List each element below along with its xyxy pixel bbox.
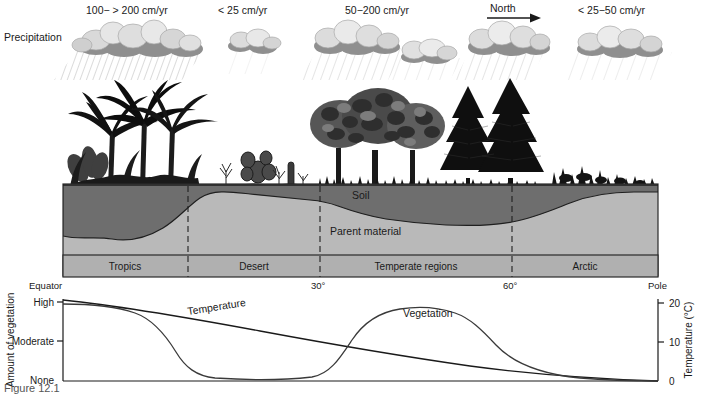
precip-label-1: < 25 cm/yr <box>218 4 268 16</box>
vegetation-temperate-deciduous <box>310 88 445 188</box>
cloud-group-arctic <box>577 26 663 58</box>
cloud-group-tropics <box>72 20 203 57</box>
y-axis-title-left: Amount of vegetation <box>5 293 16 388</box>
figure-caption: Figure 12.1 <box>4 382 60 394</box>
ytick-right-20: 20 <box>669 298 681 309</box>
parent-material-label: Parent material <box>330 225 401 237</box>
ytick-high: High <box>33 297 54 308</box>
series-line-temperature <box>63 300 658 381</box>
y-axis-title-right: Temperature (°C) <box>683 302 694 379</box>
cloud-group-desert <box>228 29 281 54</box>
zone-label-temperate: Temperate regions <box>375 261 458 272</box>
north-label: North <box>490 2 516 14</box>
latitude-axis: Equator 30° 60° Pole <box>29 280 667 291</box>
precip-label-2: 50−200 cm/yr <box>345 4 409 16</box>
ytick-right-0: 0 <box>669 376 675 387</box>
series-line-vegetation <box>63 304 658 381</box>
figure-root: 100− > 200 cm/yr < 25 cm/yr 50−200 cm/yr… <box>0 0 701 394</box>
lat-tick-60: 60° <box>503 280 518 291</box>
north-arrow-icon: North <box>487 2 541 22</box>
vegetation-temperate-conifer <box>440 78 544 188</box>
cloud-group-conifer <box>468 21 550 56</box>
ytick-moderate: Moderate <box>12 336 55 347</box>
annotation-vegetation: Vegetation <box>403 307 453 319</box>
zone-label-arctic: Arctic <box>573 261 598 272</box>
annotation-temperature: Temperature <box>186 296 246 317</box>
precip-label-0: 100− > 200 cm/yr <box>86 4 168 16</box>
vegetation-desert <box>212 151 312 188</box>
lat-tick-pole: Pole <box>648 280 667 291</box>
biome-soil-diagram: 100− > 200 cm/yr < 25 cm/yr 50−200 cm/yr… <box>0 0 701 394</box>
vegetation-arctic <box>552 166 655 186</box>
ytick-right-10: 10 <box>669 337 681 348</box>
zone-label-tropics: Tropics <box>109 261 141 272</box>
soil-label: Soil <box>352 189 370 201</box>
lat-tick-equator: Equator <box>29 280 62 291</box>
vegetation-tropics <box>63 80 218 188</box>
zone-label-desert: Desert <box>239 261 269 272</box>
vegetation-temperature-chart: High Moderate None 20 10 0 Temperature V… <box>5 293 694 388</box>
precipitation-row-label: Precipitation <box>4 31 62 43</box>
lat-tick-30: 30° <box>311 280 326 291</box>
precip-label-3: < 25−50 cm/yr <box>578 4 646 16</box>
